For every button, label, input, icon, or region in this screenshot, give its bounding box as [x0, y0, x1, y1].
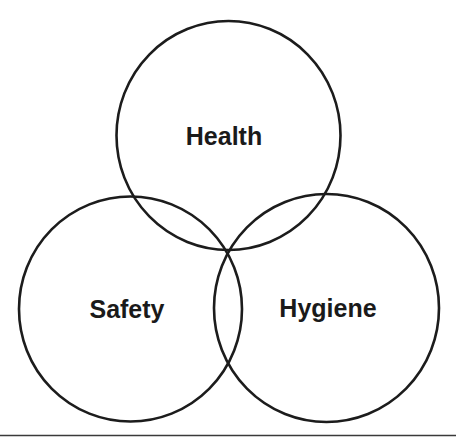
venn-diagram: Health Safety Hygiene	[0, 0, 456, 444]
label-hygiene: Hygiene	[279, 294, 376, 322]
circle-hygiene-group: Hygiene	[214, 194, 439, 422]
label-health: Health	[186, 122, 262, 150]
label-safety: Safety	[89, 295, 164, 323]
circle-safety-group: Safety	[19, 197, 242, 422]
circle-health-group: Health	[117, 21, 341, 250]
